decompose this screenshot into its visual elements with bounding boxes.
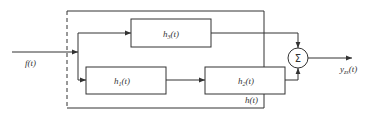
- block-h3: h3(t): [131, 19, 211, 47]
- summer-node: Σ: [288, 48, 308, 68]
- block-diagram: f(t) h3(t) h1(t) h2(t) Σ yzs(t) h(t): [0, 0, 370, 120]
- input-label: f(t): [25, 58, 36, 68]
- block-h1: h1(t): [86, 67, 166, 94]
- svg-text:h3(t): h3(t): [163, 29, 179, 40]
- system-label: h(t): [245, 95, 258, 105]
- svg-text:h2(t): h2(t): [238, 76, 254, 87]
- sigma-icon: Σ: [295, 53, 301, 64]
- h2-to-sum-arrow: [285, 68, 298, 80]
- block-h2: h2(t): [205, 67, 285, 94]
- svg-text:h1(t): h1(t): [114, 76, 130, 87]
- output-label: yzs(t): [339, 64, 357, 75]
- h3-to-sum-arrow: [211, 33, 298, 48]
